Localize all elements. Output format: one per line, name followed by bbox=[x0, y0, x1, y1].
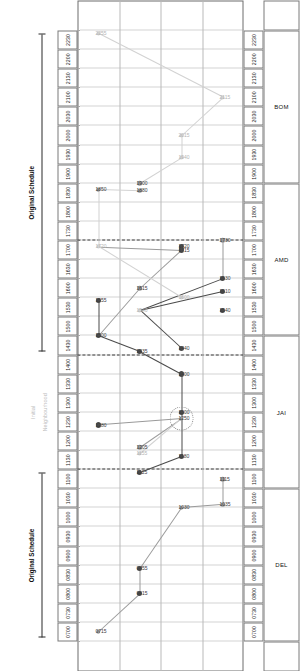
bracket-original-right-cap bbox=[39, 33, 46, 34]
time-axis-top: 0700073008000830090009301000103011001130… bbox=[58, 0, 78, 671]
time-tick-top-1300: 1300 bbox=[58, 393, 78, 412]
time-tick-bottom-2100: 2100 bbox=[244, 87, 264, 106]
data-point-label: 1115 bbox=[220, 475, 230, 481]
time-tick-top-1100: 1100 bbox=[58, 469, 78, 488]
schedule-link bbox=[98, 301, 99, 336]
data-point-label: 0815 bbox=[137, 589, 148, 595]
data-point-label: 1205 bbox=[137, 443, 148, 449]
time-tick-top-1230: 1230 bbox=[58, 412, 78, 431]
row-label-amd[interactable]: AMD bbox=[264, 183, 298, 336]
time-tick-bottom-1930: 1930 bbox=[244, 145, 264, 164]
data-point-label: 1180 bbox=[178, 452, 189, 458]
time-tick-top-0930: 0930 bbox=[58, 526, 78, 545]
time-tick-bottom-1300: 1300 bbox=[244, 393, 264, 412]
time-tick-bottom-0730: 0730 bbox=[244, 603, 264, 622]
annotation-neighbourhood: Neighbourhood bbox=[42, 393, 48, 431]
data-point-label: 1280 bbox=[95, 421, 106, 427]
time-tick-bottom-1200: 1200 bbox=[244, 431, 264, 450]
row-label-jai[interactable]: JAI bbox=[264, 336, 298, 489]
bracket-original-right bbox=[42, 34, 43, 351]
data-point-label: 1720 bbox=[95, 242, 106, 248]
annotation-band: Original ScheduleNeighbourhoodInitialOri… bbox=[12, 0, 58, 671]
time-tick-top-2200: 2200 bbox=[58, 49, 78, 68]
data-point-label: 1900 bbox=[137, 179, 148, 185]
bracket-original-right-cap bbox=[39, 350, 46, 351]
time-tick-top-2130: 2130 bbox=[58, 68, 78, 87]
time-tick-top-0900: 0900 bbox=[58, 546, 78, 565]
time-tick-top-1730: 1730 bbox=[58, 221, 78, 240]
data-point-label: 0715 bbox=[95, 627, 106, 633]
time-tick-top-2100: 2100 bbox=[58, 87, 78, 106]
time-tick-top-0730: 0730 bbox=[58, 603, 78, 622]
time-tick-top-1330: 1330 bbox=[58, 374, 78, 393]
time-tick-bottom-0830: 0830 bbox=[244, 565, 264, 584]
time-tick-bottom-1800: 1800 bbox=[244, 202, 264, 221]
time-tick-top-1200: 1200 bbox=[58, 431, 78, 450]
time-tick-top-1430: 1430 bbox=[58, 336, 78, 355]
time-tick-top-1500: 1500 bbox=[58, 316, 78, 335]
time-tick-bottom-1030: 1030 bbox=[244, 488, 264, 507]
time-tick-bottom-1900: 1900 bbox=[244, 164, 264, 183]
time-axis-bottom: 0700073008000830090009301000103011001130… bbox=[244, 0, 264, 671]
time-tick-bottom-0800: 0800 bbox=[244, 584, 264, 603]
row-label-text: BOM bbox=[274, 103, 288, 109]
row-label-text: AMD bbox=[275, 256, 289, 262]
time-tick-top-1700: 1700 bbox=[58, 240, 78, 259]
data-point-label: 1610 bbox=[220, 287, 231, 293]
data-point-label: 1540 bbox=[220, 306, 231, 312]
time-tick-top-1630: 1630 bbox=[58, 259, 78, 278]
data-point-label: 1155 bbox=[137, 449, 148, 455]
time-tick-top-2000: 2000 bbox=[58, 125, 78, 144]
data-point-label: 1030 bbox=[178, 503, 189, 509]
data-point-label: 1540 bbox=[137, 306, 148, 312]
highlight-circle bbox=[169, 406, 193, 430]
time-tick-top-1000: 1000 bbox=[58, 507, 78, 526]
time-tick-bottom-1700: 1700 bbox=[244, 240, 264, 259]
data-point-label: 2015 bbox=[178, 131, 189, 137]
data-point-label: 1940 bbox=[178, 153, 189, 159]
data-point-label: 1035 bbox=[220, 500, 231, 506]
rotated-figure-stage: Original ScheduleNeighbourhoodInitialOri… bbox=[12, 0, 298, 671]
time-tick-bottom-1730: 1730 bbox=[244, 221, 264, 240]
time-tick-top-1930: 1930 bbox=[58, 145, 78, 164]
time-tick-top-1530: 1530 bbox=[58, 297, 78, 316]
data-point-label: 1440 bbox=[178, 344, 189, 350]
row-separator bbox=[119, 0, 120, 671]
data-point-label: 1435 bbox=[137, 347, 148, 353]
data-point-label: 1500 bbox=[95, 332, 106, 338]
time-tick-bottom-1830: 1830 bbox=[244, 183, 264, 202]
time-tick-top-1600: 1600 bbox=[58, 278, 78, 297]
schedule-timeline-figure: Original ScheduleNeighbourhoodInitialOri… bbox=[12, 0, 298, 671]
data-point-label: 1600 bbox=[178, 293, 189, 299]
plot-area: 0715225512801555150017201850081508551125… bbox=[78, 0, 244, 671]
bracket-original-left bbox=[42, 473, 43, 637]
time-tick-bottom-1530: 1530 bbox=[244, 297, 264, 316]
time-tick-bottom-1630: 1630 bbox=[244, 259, 264, 278]
row-label-corner bbox=[264, 641, 298, 671]
time-tick-bottom-1400: 1400 bbox=[244, 355, 264, 374]
time-tick-bottom-2230: 2230 bbox=[244, 30, 264, 49]
annotation-original-right: Original Schedule bbox=[28, 166, 35, 220]
time-tick-top-0830: 0830 bbox=[58, 565, 78, 584]
time-tick-bottom-1500: 1500 bbox=[244, 316, 264, 335]
time-tick-bottom-0700: 0700 bbox=[244, 622, 264, 641]
time-tick-bottom-1230: 1230 bbox=[244, 412, 264, 431]
data-point-label: 2115 bbox=[220, 93, 231, 99]
schedule-link bbox=[223, 240, 224, 278]
time-tick-top-1130: 1130 bbox=[58, 450, 78, 469]
time-tick-top-0700: 0700 bbox=[58, 622, 78, 641]
row-label-text: DEL bbox=[275, 562, 287, 568]
row-separator bbox=[202, 0, 203, 671]
time-tick-bottom-1000: 1000 bbox=[244, 507, 264, 526]
row-label-bom[interactable]: BOM bbox=[264, 30, 298, 183]
time-tick-top-1030: 1030 bbox=[58, 488, 78, 507]
data-point-label: 2255 bbox=[95, 29, 106, 35]
time-tick-top-1800: 1800 bbox=[58, 202, 78, 221]
row-label-del[interactable]: DEL bbox=[264, 488, 298, 641]
data-point-label: 1125 bbox=[137, 468, 148, 474]
data-point-label: 1615 bbox=[137, 284, 148, 290]
time-tick-top-1900: 1900 bbox=[58, 164, 78, 183]
data-point-label: 1630 bbox=[220, 274, 231, 280]
time-tick-bottom-1330: 1330 bbox=[244, 374, 264, 393]
time-tick-bottom-2000: 2000 bbox=[244, 125, 264, 144]
